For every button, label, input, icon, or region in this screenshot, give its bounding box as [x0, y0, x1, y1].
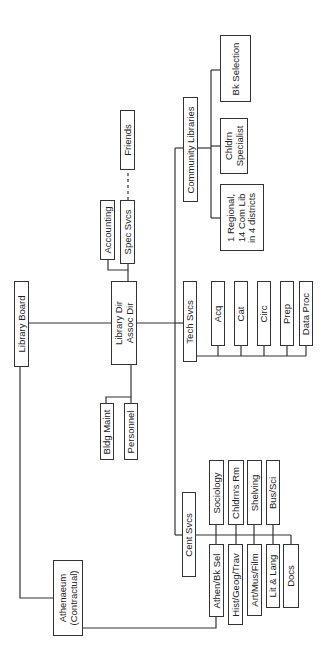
- node-library-board: Library Board: [14, 281, 29, 367]
- node-bus-sci: Bus/Sci: [266, 460, 280, 525]
- node-data-proc: Data Proc: [299, 281, 313, 346]
- node-chldrn-specialist: Chldrn Specialist: [220, 118, 248, 174]
- node-acq: Acq: [211, 281, 225, 346]
- node-accounting: Accounting: [100, 200, 115, 260]
- node-community-libraries: Community Libraries: [183, 97, 198, 202]
- node-cent-svcs: Cent Svcs: [182, 492, 196, 577]
- node-art-mus-film: Art/Mus/Film: [247, 544, 262, 616]
- node-prep: Prep: [280, 281, 294, 346]
- node-spec-svcs: Spec Svcs: [120, 200, 135, 264]
- node-athenaeum: Athenaeum (Contractual): [53, 560, 83, 636]
- node-tech-svcs: Tech Svcs: [183, 281, 197, 362]
- node-sociology: Sociology: [209, 460, 224, 525]
- node-regional: 1 Regional, 14 Com Lib in 4 districts: [220, 184, 264, 251]
- org-chart: Library Board Library Dir Assoc Dir Acco…: [0, 0, 328, 665]
- node-bldg-maint: Bldg Maint: [100, 403, 114, 460]
- node-chldrns-rm: Chldrn's Rm: [228, 460, 244, 525]
- node-personnel: Personnel: [124, 403, 138, 460]
- node-library-dir: Library Dir Assoc Dir: [111, 281, 137, 365]
- node-cat: Cat: [234, 281, 248, 346]
- node-bk-selection: Bk Selection: [220, 35, 251, 102]
- node-shelving: Shelving: [247, 460, 262, 525]
- node-athen-bk-sel: Athen/Bk Sel: [209, 544, 224, 617]
- node-docs: Docs: [283, 544, 299, 608]
- node-friends: Friends: [120, 110, 135, 170]
- node-lit-lang: Lit & Lang: [266, 544, 280, 608]
- node-hist-geog-trav: Hist/Geog/Trav: [228, 544, 243, 625]
- node-circ: Circ: [257, 281, 271, 346]
